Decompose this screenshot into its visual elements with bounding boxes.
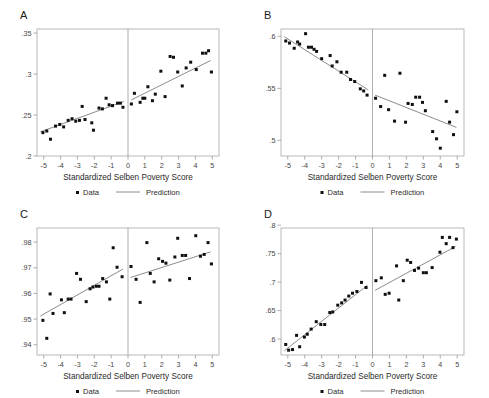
x-axis-title: Standardized Selben Poverty Score bbox=[63, 173, 193, 182]
data-point bbox=[388, 292, 391, 295]
x-axis-tick-label: 1 bbox=[143, 161, 147, 170]
data-point bbox=[116, 266, 119, 269]
data-point bbox=[349, 78, 352, 81]
y-axis-tick-label: .94 bbox=[22, 340, 32, 349]
data-point bbox=[111, 104, 114, 107]
data-point bbox=[451, 246, 454, 249]
data-point bbox=[448, 236, 451, 239]
y-axis-tick-label: .5 bbox=[270, 136, 276, 145]
data-point bbox=[365, 286, 368, 289]
data-point bbox=[303, 336, 306, 339]
x-axis-tick-label: -4 bbox=[302, 161, 308, 170]
data-point bbox=[133, 92, 136, 95]
data-point bbox=[310, 328, 313, 331]
data-point bbox=[108, 103, 111, 106]
x-axis-tick-label: -5 bbox=[285, 360, 291, 369]
x-axis-tick-label: -3 bbox=[318, 360, 324, 369]
data-point bbox=[52, 312, 55, 315]
data-point bbox=[195, 68, 198, 71]
data-point bbox=[411, 103, 414, 106]
data-point bbox=[116, 102, 119, 105]
data-point bbox=[431, 130, 434, 133]
data-point bbox=[455, 110, 458, 113]
data-point bbox=[291, 348, 294, 351]
data-point bbox=[143, 97, 146, 100]
data-point bbox=[210, 262, 213, 265]
data-point bbox=[146, 85, 149, 88]
data-point bbox=[54, 125, 57, 128]
data-point bbox=[307, 46, 310, 49]
panel-label-c: C bbox=[20, 208, 28, 220]
data-point bbox=[58, 123, 61, 126]
x-axis-tick-label: 4 bbox=[193, 360, 197, 369]
data-point bbox=[119, 102, 122, 105]
panel-c: C .94.95.96.97.98-5-4-3-2-1012345Standar… bbox=[0, 199, 244, 398]
y-axis-tick-label: .96 bbox=[22, 289, 32, 298]
x-axis-tick-label: 1 bbox=[387, 161, 391, 170]
data-point bbox=[379, 105, 382, 108]
data-point bbox=[421, 101, 424, 104]
data-point bbox=[62, 125, 65, 128]
x-axis-tick-label: 4 bbox=[438, 360, 442, 369]
data-point bbox=[210, 71, 213, 74]
x-axis-tick-label: -2 bbox=[335, 360, 341, 369]
data-point bbox=[172, 56, 175, 59]
x-axis-tick-label: -5 bbox=[285, 161, 291, 170]
panel-label-a: A bbox=[20, 9, 28, 21]
data-point bbox=[344, 299, 347, 302]
data-point bbox=[139, 101, 142, 104]
y-axis-tick-label: .6 bbox=[270, 335, 276, 344]
prediction-line-right bbox=[375, 95, 456, 127]
data-point bbox=[323, 323, 326, 326]
x-axis-tick-label: -5 bbox=[41, 360, 47, 369]
data-point bbox=[418, 96, 421, 99]
data-point bbox=[335, 60, 338, 63]
data-point bbox=[441, 236, 444, 239]
data-point bbox=[306, 333, 309, 336]
data-point bbox=[431, 266, 434, 269]
data-point bbox=[149, 272, 152, 275]
data-point bbox=[194, 234, 197, 237]
data-point bbox=[406, 259, 409, 262]
x-axis-tick-label: 2 bbox=[160, 161, 164, 170]
data-point bbox=[395, 264, 398, 267]
data-point bbox=[139, 301, 142, 304]
data-point bbox=[176, 237, 179, 240]
data-point bbox=[340, 71, 343, 74]
data-point bbox=[439, 147, 442, 150]
data-point bbox=[101, 277, 104, 280]
data-point bbox=[284, 39, 287, 42]
data-point bbox=[287, 349, 290, 352]
data-point bbox=[315, 320, 318, 323]
data-point bbox=[387, 108, 390, 111]
data-point bbox=[154, 93, 157, 96]
x-axis-tick-label: -4 bbox=[57, 161, 63, 170]
y-axis-tick-label: .75 bbox=[266, 249, 276, 258]
data-point bbox=[157, 257, 160, 260]
data-point bbox=[135, 278, 138, 281]
x-axis-tick-label: 3 bbox=[421, 360, 425, 369]
x-axis-tick-label: 0 bbox=[126, 161, 130, 170]
data-point bbox=[360, 281, 363, 284]
x-axis-tick-label: -1 bbox=[352, 360, 358, 369]
data-point bbox=[89, 287, 92, 290]
x-axis-tick-label: 5 bbox=[455, 161, 459, 170]
data-point bbox=[288, 42, 291, 45]
data-point bbox=[145, 241, 148, 244]
y-axis-tick-label: .2 bbox=[26, 152, 32, 161]
data-point bbox=[398, 72, 401, 75]
data-point bbox=[199, 255, 202, 258]
data-point bbox=[41, 319, 44, 322]
data-point bbox=[41, 131, 44, 134]
x-axis-tick-label: -2 bbox=[335, 161, 341, 170]
data-point bbox=[320, 57, 323, 60]
y-axis-tick-label: .98 bbox=[22, 238, 32, 247]
data-point bbox=[188, 277, 191, 280]
data-point bbox=[362, 89, 365, 92]
x-axis-tick-label: 5 bbox=[210, 161, 214, 170]
x-axis-tick-label: -1 bbox=[352, 161, 358, 170]
data-point bbox=[101, 107, 104, 110]
data-point bbox=[351, 292, 354, 295]
data-point bbox=[78, 119, 81, 122]
legend-data-marker-icon bbox=[321, 390, 324, 393]
